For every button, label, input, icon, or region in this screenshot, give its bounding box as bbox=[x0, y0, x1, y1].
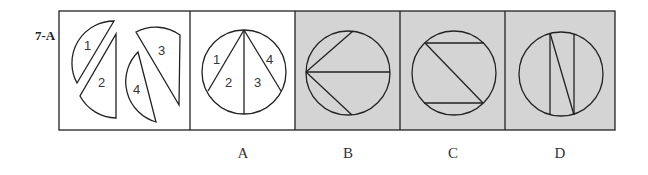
option-b-label[interactable]: B bbox=[333, 145, 363, 162]
piece-1-number: 1 bbox=[84, 38, 91, 53]
piece-2-number: 2 bbox=[98, 75, 105, 90]
option-d-panel[interactable] bbox=[505, 11, 615, 130]
piece-4-number: 4 bbox=[133, 82, 140, 97]
option-c-label[interactable]: C bbox=[438, 145, 468, 162]
option-b-panel[interactable] bbox=[295, 11, 400, 130]
option-a-number-2: 2 bbox=[225, 75, 232, 90]
option-d-label[interactable]: D bbox=[545, 145, 575, 162]
option-a-number-1: 1 bbox=[213, 52, 220, 67]
option-a-panel[interactable] bbox=[190, 11, 295, 130]
option-c-panel[interactable] bbox=[400, 11, 505, 130]
option-a-number-3: 3 bbox=[254, 75, 261, 90]
option-a-number-4: 4 bbox=[266, 52, 273, 67]
option-a-label[interactable]: A bbox=[228, 145, 258, 162]
piece-3-number: 3 bbox=[158, 43, 165, 58]
question-panel bbox=[59, 11, 190, 130]
